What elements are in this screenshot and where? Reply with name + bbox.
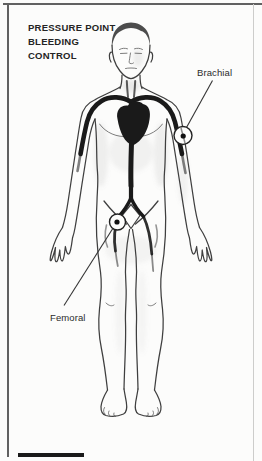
label-brachial: Brachial (197, 67, 232, 78)
left-brachial-artery-fade (78, 154, 81, 171)
right-hand (190, 228, 212, 262)
face-outline (112, 45, 150, 79)
right-knee-line (148, 303, 156, 306)
femoral-leader-line (64, 229, 113, 306)
descending-aorta (131, 143, 132, 186)
left-hand (50, 228, 72, 262)
bottom-crop-bar (18, 453, 84, 457)
label-femoral: Femoral (50, 312, 86, 323)
femoral-dot (114, 219, 119, 224)
nose (129, 53, 134, 64)
figure-title: PRESSURE POINT BLEEDING CONTROL (28, 21, 115, 63)
left-foot (101, 389, 127, 416)
brachial-dot (181, 133, 186, 138)
right-groin-vessel-streak (155, 225, 157, 247)
right-foot (135, 389, 161, 416)
pressure-point-femoral (110, 214, 126, 230)
right-carotid-artery (134, 81, 135, 97)
hair (112, 23, 150, 48)
left-eyebrow (120, 48, 128, 49)
mouth (126, 68, 137, 69)
right-ear (151, 52, 153, 62)
figure-title-line-3: CONTROL (28, 49, 115, 63)
left-carotid-artery (127, 81, 128, 97)
brachial-leader-line (187, 81, 213, 128)
left-knee-line (106, 303, 114, 306)
left-groin-vessel-streak (105, 225, 107, 247)
figure-title-line-1: PRESSURE POINT (28, 21, 115, 35)
figure-shading (94, 49, 188, 354)
pressure-point-brachial (174, 127, 192, 145)
figure-title-line-2: BLEEDING (28, 35, 115, 49)
